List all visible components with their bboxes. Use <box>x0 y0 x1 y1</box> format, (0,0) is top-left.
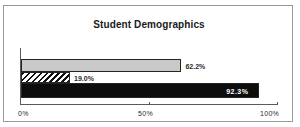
bar-value-label-2: 19.0% <box>74 74 94 83</box>
x-axis-label-0: 0% <box>18 110 29 117</box>
bar-value-label-1: 62.2% <box>185 62 205 71</box>
bar-series-2 <box>21 72 70 83</box>
x-axis-tick-100 <box>277 102 278 105</box>
chart-frame: Student Demographics 62.2% 19.0% 92.3% 0… <box>3 5 293 122</box>
bar-series-1 <box>21 59 181 72</box>
x-axis-label-100: 100% <box>260 110 279 117</box>
chart-title: Student Demographics <box>4 19 293 30</box>
plot-area: 62.2% 19.0% 92.3% 0% 50% 100% <box>20 48 278 104</box>
x-axis-tick-0 <box>20 102 21 105</box>
x-axis-label-50: 50% <box>138 110 153 117</box>
bar-series-3 <box>21 83 259 98</box>
bar-value-label-3: 92.3% <box>226 87 248 96</box>
x-axis-tick-50 <box>149 102 150 105</box>
